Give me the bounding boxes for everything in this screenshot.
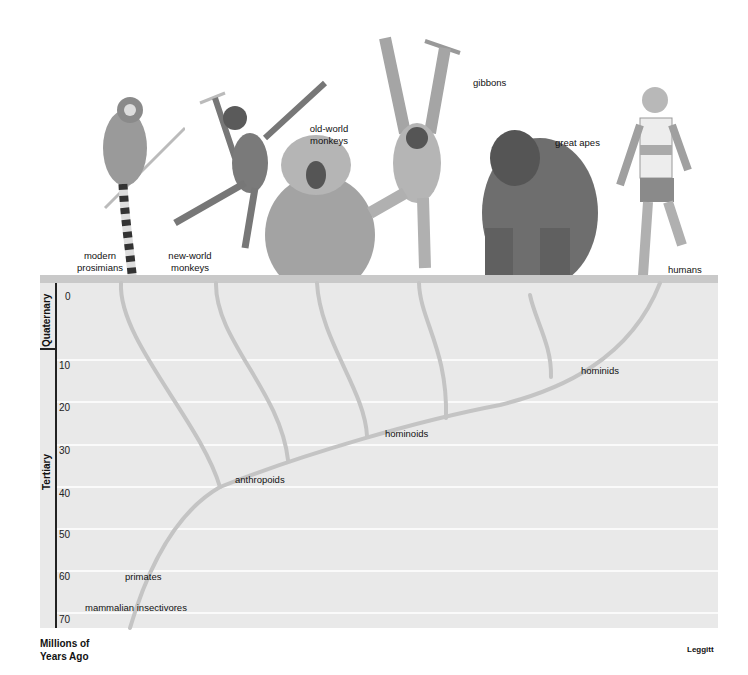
label-insectivores: mammalian insectivores bbox=[85, 602, 187, 614]
label-humans: humans bbox=[668, 264, 702, 276]
phylogenetic-tree bbox=[0, 0, 748, 675]
label-hominids: hominids bbox=[581, 365, 619, 377]
label-old-world-monkeys: old-world monkeys bbox=[299, 123, 359, 147]
label-gibbons: gibbons bbox=[473, 77, 506, 89]
label-anthropoids: anthropoids bbox=[235, 474, 285, 486]
label-new-world-monkeys: new-world monkeys bbox=[160, 250, 220, 274]
label-primates: primates bbox=[125, 571, 161, 583]
label-prosimians: modern prosimians bbox=[65, 250, 135, 274]
label-hominoids: hominoids bbox=[385, 428, 428, 440]
illustrator-credit: Leggitt bbox=[687, 645, 714, 654]
axis-title: Millions of Years Ago bbox=[40, 637, 89, 663]
label-great-apes: great apes bbox=[555, 137, 600, 149]
